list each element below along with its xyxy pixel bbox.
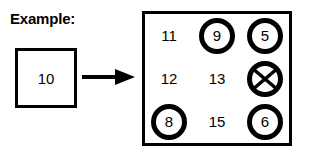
right-arrow-icon [82,68,136,86]
grid-cell[interactable]: 9 [193,14,241,57]
cross-out-icon [248,62,282,96]
source-number-value: 10 [18,51,74,105]
grid-cell-value: 12 [161,71,178,86]
grid-cell[interactable]: 8 [145,100,193,143]
page-title: Example: [10,10,75,28]
grid-cell-value: 13 [209,71,226,86]
grid-cell[interactable]: 5 [241,14,289,57]
grid-cell[interactable] [241,57,289,100]
grid-cell[interactable]: 13 [193,57,241,100]
grid-cell[interactable]: 11 [145,14,193,57]
source-number-box: 10 [15,48,77,108]
grid-cell-value: 11 [161,28,177,43]
grid-cell[interactable]: 12 [145,57,193,100]
grid-cell-value: 6 [261,114,269,129]
number-grid-panel: 119512138156 [142,11,292,146]
grid-cell-value: 9 [213,28,221,43]
number-grid: 119512138156 [145,14,289,143]
grid-cell-value: 15 [209,114,226,129]
grid-cell[interactable]: 6 [241,100,289,143]
grid-cell-value: 8 [165,114,173,129]
grid-cell[interactable]: 15 [193,100,241,143]
grid-cell-value: 5 [261,28,269,43]
example-diagram: Example: 10 119512138156 [0,0,309,156]
